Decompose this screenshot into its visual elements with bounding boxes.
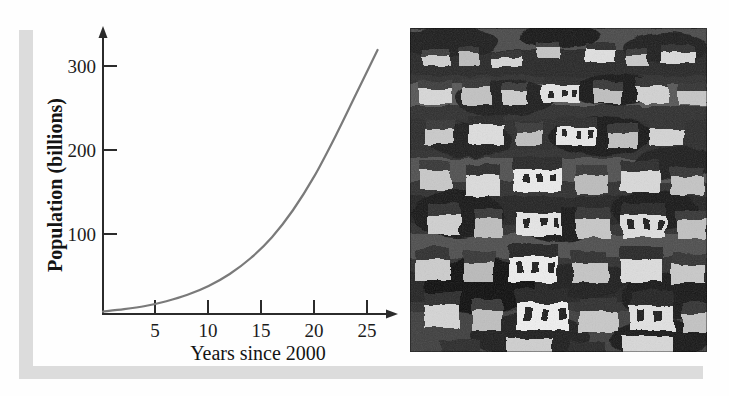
x-tick-label-15: 15 <box>252 320 271 341</box>
figure-root: 300 200 100 5 10 15 20 25 Years since 20… <box>0 0 729 396</box>
photo-svg <box>410 28 707 352</box>
population-curve <box>103 50 378 312</box>
x-axis-title: Years since 2000 <box>190 342 326 364</box>
y-axis-ticks <box>103 66 117 234</box>
y-axis-arrowhead <box>99 26 108 38</box>
chart-axes <box>99 26 399 319</box>
x-axis-arrowhead <box>386 310 398 319</box>
y-tick-label-300: 300 <box>68 56 97 77</box>
population-growth-chart: 300 200 100 5 10 15 20 25 Years since 20… <box>0 0 404 396</box>
y-axis-title: Population (billions) <box>44 98 67 272</box>
x-tick-label-20: 20 <box>305 320 324 341</box>
y-tick-label-100: 100 <box>68 224 97 245</box>
x-tick-label-25: 25 <box>358 320 377 341</box>
y-tick-label-200: 200 <box>68 140 97 161</box>
x-tick-label-10: 10 <box>199 320 218 341</box>
x-tick-label-5: 5 <box>150 320 160 341</box>
hillside-settlement-photo <box>410 28 707 352</box>
x-axis-ticks <box>155 300 367 314</box>
chart-svg: 300 200 100 5 10 15 20 25 Years since 20… <box>0 0 404 396</box>
